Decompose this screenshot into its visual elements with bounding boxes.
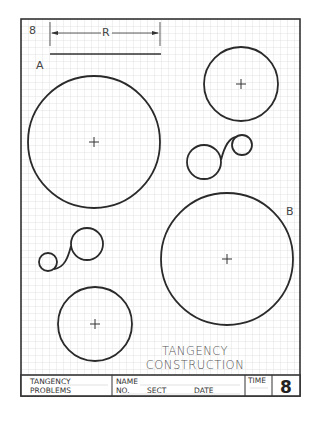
time-label: TIME: [248, 377, 266, 385]
subject-line-1: TANGENCY: [30, 378, 71, 386]
label-a: A: [36, 60, 44, 71]
name-label: NAME: [116, 378, 138, 386]
title-line-2: CONSTRUCTION: [130, 358, 260, 372]
sheet-number: 8: [280, 377, 292, 397]
title-line-1: TANGENCY: [130, 344, 260, 358]
no-label: NO.: [116, 387, 130, 395]
subject-line-2: PROBLEMS: [30, 387, 71, 395]
dimension-label-r: R: [102, 27, 110, 38]
label-b: B: [286, 206, 294, 217]
problem-number: 8: [29, 25, 36, 36]
date-label: DATE: [194, 387, 214, 395]
grid-background: [21, 19, 300, 396]
sect-label: SECT: [147, 387, 166, 395]
